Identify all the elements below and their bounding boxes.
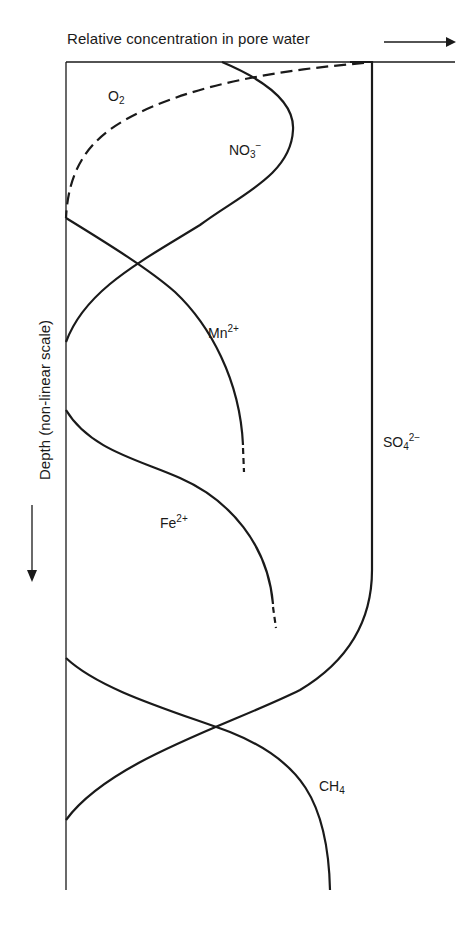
x-axis-arrow-icon bbox=[384, 37, 456, 47]
o2-label: O2 bbox=[108, 88, 124, 106]
fe-label: Fe2+ bbox=[160, 513, 188, 531]
so4-label: SO42− bbox=[383, 432, 420, 452]
mn-label-base: Mn bbox=[208, 325, 227, 341]
no3-label-base: NO bbox=[229, 142, 250, 158]
fe-label-base: Fe bbox=[160, 515, 176, 531]
ch4-label-sub: 4 bbox=[339, 785, 345, 796]
no3-label-sup: − bbox=[256, 140, 262, 151]
no3-curve bbox=[66, 62, 293, 342]
so4-label-sup: 2− bbox=[409, 432, 420, 443]
mn-curve-dashed-tail bbox=[243, 448, 244, 472]
ch4-curve bbox=[66, 658, 330, 890]
ch4-label: CH4 bbox=[319, 778, 345, 796]
no3-label: NO3− bbox=[229, 140, 261, 160]
so4-label-base: SO bbox=[383, 434, 403, 450]
fe-curve-dashed-tail bbox=[273, 607, 276, 628]
o2-curve bbox=[66, 63, 364, 218]
so4-curve bbox=[66, 62, 372, 820]
chart-plot bbox=[0, 0, 472, 926]
mn-label-sup: 2+ bbox=[227, 323, 238, 334]
o2-label-sub: 2 bbox=[119, 95, 125, 106]
o2-label-base: O bbox=[108, 88, 119, 104]
ch4-label-base: CH bbox=[319, 778, 339, 794]
mn-label: Mn2+ bbox=[208, 323, 239, 341]
fe-label-sup: 2+ bbox=[176, 513, 187, 524]
y-axis-arrow-icon bbox=[27, 505, 37, 582]
